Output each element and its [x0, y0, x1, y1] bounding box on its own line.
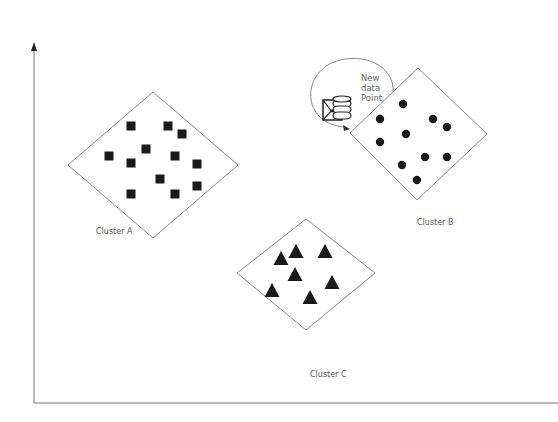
circle-marker-icon [399, 100, 407, 108]
square-marker-icon [178, 130, 187, 139]
new-point-line-2: data [361, 83, 382, 93]
circle-marker-icon [429, 115, 437, 123]
square-marker-icon [171, 152, 180, 161]
cluster-c-label: Cluster C [310, 370, 347, 379]
square-marker-icon [171, 190, 180, 199]
square-marker-icon [142, 145, 151, 154]
cluster-a-label: Cluster A [96, 227, 132, 236]
circle-marker-icon [398, 161, 406, 169]
square-marker-icon [193, 182, 202, 191]
database-disk-icon [333, 112, 351, 119]
database-top-icon [333, 96, 351, 102]
new-point-line-1: New [361, 73, 382, 83]
circle-marker-icon [413, 176, 421, 184]
square-marker-icon [156, 175, 165, 184]
callout-arrow-icon [343, 125, 350, 131]
cluster-c-boundary [237, 219, 375, 330]
circle-marker-icon [443, 123, 451, 131]
circle-marker-icon [376, 138, 384, 146]
new-data-point-label: New data Point [361, 73, 382, 103]
square-marker-icon [193, 160, 202, 169]
square-marker-icon [105, 152, 114, 161]
circle-marker-icon [376, 115, 384, 123]
square-marker-icon [164, 122, 173, 131]
circle-marker-icon [421, 153, 429, 161]
square-marker-icon [127, 190, 136, 199]
new-point-line-3: Point [361, 93, 382, 103]
cluster-a-boundary [68, 92, 238, 238]
circle-marker-icon [402, 130, 410, 138]
square-marker-icon [127, 159, 136, 168]
square-marker-icon [127, 122, 136, 131]
circle-marker-icon [443, 153, 451, 161]
cluster-b-label: Cluster B [417, 218, 453, 227]
diagram-canvas [0, 0, 558, 422]
y-axis-arrow-icon [31, 42, 37, 51]
